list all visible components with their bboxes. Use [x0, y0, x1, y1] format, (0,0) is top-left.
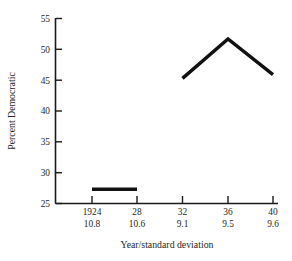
y-axis-tick-labels: 55 50 45 40 35 30 25: [41, 14, 51, 209]
x-axis-sublabels: 10.8 10.6 9.1 9.5 9.6: [84, 219, 279, 229]
x-sublabel-36: 9.5: [222, 219, 234, 229]
x-tick-label-28: 28: [132, 207, 142, 217]
x-axis-ticks: [92, 196, 273, 204]
x-axis-tick-labels: 1924 28 32 36 40: [83, 207, 278, 217]
x-tick-label-40: 40: [268, 207, 278, 217]
y-tick-label-55: 55: [41, 14, 51, 24]
y-axis-ticks: [56, 19, 63, 204]
y-tick-label-25: 25: [41, 199, 51, 209]
chart-canvas: 55 50 45 40 35 30 25 1924 28 32 36 40 10…: [0, 0, 292, 261]
x-sublabel-32: 9.1: [177, 219, 189, 229]
y-tick-label-35: 35: [41, 137, 51, 147]
x-sublabel-1924: 10.8: [84, 219, 101, 229]
y-axis-title: Percent Democratic: [6, 72, 17, 150]
y-tick-label-30: 30: [41, 168, 51, 178]
chart-figure: 55 50 45 40 35 30 25 1924 28 32 36 40 10…: [0, 0, 292, 261]
x-axis-title: Year/standard deviation: [121, 239, 214, 250]
x-tick-label-32: 32: [178, 207, 188, 217]
y-tick-label-50: 50: [41, 45, 51, 55]
x-tick-label-1924: 1924: [83, 207, 102, 217]
y-tick-label-40: 40: [41, 106, 51, 116]
x-sublabel-28: 10.6: [129, 219, 146, 229]
data-segment-late: [183, 39, 274, 79]
y-tick-label-45: 45: [41, 76, 51, 86]
x-sublabel-40: 9.6: [267, 219, 279, 229]
x-tick-label-36: 36: [223, 207, 233, 217]
